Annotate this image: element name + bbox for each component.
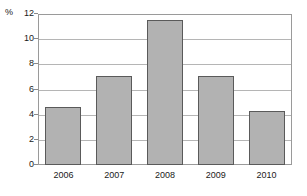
bar: [147, 20, 183, 165]
y-axis-tick-label: 0: [8, 160, 34, 169]
y-axis-tick-label: 8: [8, 59, 34, 68]
bar: [198, 76, 234, 165]
bar: [249, 111, 285, 165]
x-axis-tick-label: 2006: [38, 170, 88, 180]
bar-chart: % 024681012 20062007200820092010: [0, 0, 307, 196]
y-axis-tick-label: 2: [8, 135, 34, 144]
y-axis-tick-label: 6: [8, 85, 34, 94]
y-axis-tick-label: 4: [8, 110, 34, 119]
x-axis-tick-label: 2008: [140, 170, 190, 180]
x-axis-tick-label: 2010: [242, 170, 292, 180]
bar: [96, 76, 132, 165]
y-axis-tick-label: 10: [8, 34, 34, 43]
x-axis-tick-label: 2009: [191, 170, 241, 180]
y-axis-tick-label: 12: [8, 9, 34, 18]
x-axis-tick-label: 2007: [89, 170, 139, 180]
bar: [45, 107, 81, 165]
bar-series: [38, 14, 292, 165]
